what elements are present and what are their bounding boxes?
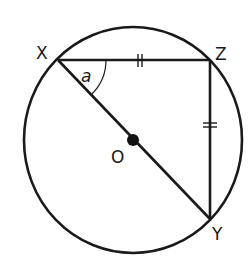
- label-x: X: [36, 43, 48, 63]
- label-o: O: [111, 147, 124, 167]
- label-angle-a: a: [81, 66, 91, 86]
- circle-geometry-diagram: X Z Y O a: [0, 0, 252, 270]
- label-z: Z: [215, 44, 227, 64]
- center-point-o: [127, 134, 139, 146]
- label-y: Y: [211, 224, 223, 244]
- angle-arc-a: [91, 60, 106, 95]
